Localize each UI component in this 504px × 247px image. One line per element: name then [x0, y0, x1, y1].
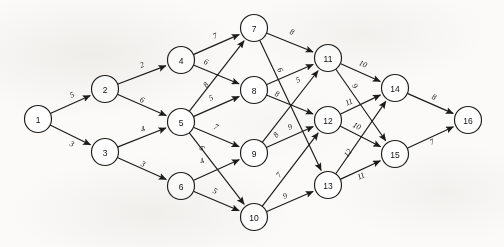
- edge-weight-8-11: 5: [294, 75, 301, 85]
- edge-4-to-8: [194, 65, 239, 83]
- node-label-8: 8: [252, 86, 257, 96]
- edge-weights-layer: 53264376857645865889791091110121187: [67, 27, 437, 201]
- edge-weight-10-12: 7: [274, 170, 284, 179]
- edge-8-to-11: [267, 65, 313, 85]
- node-6[interactable]: 6: [168, 173, 195, 200]
- edge-weight-11-15: 9: [350, 82, 360, 90]
- node-7[interactable]: 7: [241, 15, 268, 42]
- edge-weight-12-15: 10: [351, 120, 362, 132]
- node-10[interactable]: 10: [241, 204, 268, 231]
- edge-weight-11-14: 10: [358, 58, 369, 69]
- edge-weight-3-5: 4: [139, 124, 146, 134]
- edge-weight-9-11: 8: [271, 131, 281, 140]
- edge-weight-7-13: 6: [275, 66, 285, 73]
- node-15[interactable]: 15: [382, 141, 409, 168]
- node-3[interactable]: 3: [92, 139, 119, 166]
- node-13[interactable]: 13: [315, 172, 342, 199]
- node-label-11: 11: [324, 54, 333, 64]
- node-9[interactable]: 9: [241, 140, 268, 167]
- edge-weight-7-11: 8: [288, 27, 295, 37]
- edge-weight-6-10: 5: [211, 186, 218, 196]
- edge-weight-6-9: 4: [198, 156, 205, 166]
- edge-10-to-13: [267, 192, 313, 212]
- edge-weight-13-14: 12: [342, 147, 354, 159]
- edge-weight-3-6: 3: [138, 159, 146, 169]
- edge-weight-10-13: 9: [281, 191, 288, 201]
- edge-weight-8-12: 8: [273, 89, 280, 99]
- edge-8-to-12: [267, 95, 313, 114]
- edge-weight-12-14: 11: [344, 96, 355, 107]
- node-5[interactable]: 5: [168, 109, 195, 136]
- network-diagram: 53264376857645865889791091110121187 1234…: [0, 0, 504, 247]
- node-label-16: 16: [463, 116, 473, 126]
- edge-5-to-8: [194, 97, 239, 117]
- edge-7-to-11: [267, 33, 313, 52]
- edge-weight-14-16: 8: [430, 92, 437, 102]
- edge-weight-5-8: 5: [207, 93, 214, 103]
- nodes-layer: 12345678910111213141516: [25, 15, 482, 231]
- node-14[interactable]: 14: [382, 75, 409, 102]
- node-label-14: 14: [390, 84, 400, 94]
- node-16[interactable]: 16: [455, 107, 482, 134]
- graph-canvas: 53264376857645865889791091110121187 1234…: [0, 0, 504, 247]
- edge-weight-4-8: 6: [202, 57, 209, 67]
- node-8[interactable]: 8: [241, 77, 268, 104]
- node-label-4: 4: [179, 56, 184, 66]
- edge-14-to-16: [408, 94, 453, 114]
- node-label-10: 10: [249, 213, 259, 223]
- edges-layer: [51, 33, 453, 211]
- node-11[interactable]: 11: [315, 45, 342, 72]
- edge-weight-1-3: 3: [67, 139, 75, 149]
- edge-6-to-10: [194, 191, 239, 210]
- node-label-12: 12: [323, 116, 333, 126]
- node-label-9: 9: [252, 149, 257, 159]
- edge-12-to-15: [340, 126, 380, 146]
- edge-weight-1-2: 5: [68, 90, 75, 100]
- node-4[interactable]: 4: [168, 47, 195, 74]
- edge-weight-15-16: 7: [428, 137, 436, 147]
- edge-weight-13-15: 11: [356, 170, 367, 181]
- node-label-13: 13: [323, 181, 333, 191]
- edge-weight-5-9: 7: [212, 122, 220, 132]
- edge-10-to-12: [262, 133, 318, 206]
- node-2[interactable]: 2: [92, 76, 119, 103]
- node-12[interactable]: 12: [315, 107, 342, 134]
- node-label-6: 6: [179, 182, 184, 192]
- edge-weight-2-4: 2: [139, 60, 146, 70]
- edge-weight-2-5: 6: [138, 95, 145, 105]
- edge-weight-4-7: 7: [211, 31, 219, 41]
- node-label-7: 7: [252, 24, 257, 34]
- edge-5-to-7: [190, 41, 244, 111]
- node-label-3: 3: [103, 148, 108, 158]
- edge-weight-9-12: 9: [286, 122, 293, 132]
- node-label-2: 2: [103, 85, 108, 95]
- node-label-5: 5: [179, 118, 184, 128]
- node-label-1: 1: [36, 115, 41, 125]
- node-1[interactable]: 1: [25, 106, 52, 133]
- node-label-15: 15: [390, 150, 400, 160]
